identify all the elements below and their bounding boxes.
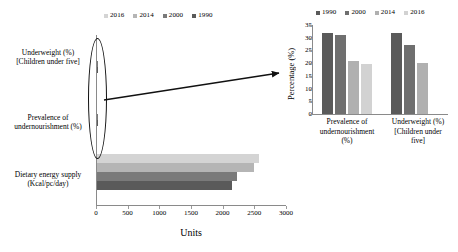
left-cat-undernourishment-line1: Prevalence of [2,113,94,122]
legend-swatch-2000-right [345,11,349,15]
left-xtick-label-0: 0 [94,209,98,217]
right-x-axis-line [312,114,448,115]
right-cat1-line2: undernourishment [310,127,384,137]
right-cat1-line3: (%) [310,136,384,146]
legend-label-2014-right: 2014 [381,9,395,16]
left-cat-dietary-line2: (Kcal/pc/day) [2,179,94,188]
legend-swatch-1990-right [316,11,320,15]
left-x-axis-title: Units [96,227,286,238]
right-chart-legend: 1990 2000 2014 2016 [316,9,425,16]
legend-label-2000: 2000 [169,12,183,19]
legend-label-1990-right: 1990 [322,9,336,16]
left-xtick-label-500: 500 [122,209,133,217]
left-category-label-underweight: Underweight (%) [Children under five] [2,48,94,66]
right-y-axis-line [312,25,313,114]
right-bar-underweight-2014 [417,63,428,114]
legend-swatch-2016 [104,14,108,18]
legend-item-1990-right: 1990 [316,9,336,16]
legend-swatch-1990 [192,14,196,18]
callout-ellipse [88,38,107,159]
right-bar-underweight-2000 [404,45,415,114]
legend-label-2014: 2014 [139,12,153,19]
legend-swatch-2016-right [404,11,408,15]
left-xtick-label-1500: 1500 [184,209,198,217]
left-cat-underweight-line2: [Children under five] [2,57,94,66]
left-xtick-label-3000: 3000 [279,209,293,217]
left-category-label-undernourishment: Prevalence of undernourishment (%) [2,113,94,131]
legend-item-2000-right: 2000 [345,9,365,16]
right-bar-undernourishment-1990 [322,33,333,114]
right-group-underweight [391,25,437,114]
left-bar-dietary-1990 [96,181,232,190]
right-category-label-undernourishment: Prevalence of undernourishment (%) [310,117,384,146]
figure-root: 2016 2014 2000 1990 Underweight (%) [Chi… [0,0,458,252]
right-bar-undernourishment-2016 [361,64,372,114]
left-cat-underweight-line1: Underweight (%) [2,48,94,57]
legend-label-2000-right: 2000 [351,9,365,16]
right-cat1-line1: Prevalence of [310,117,384,127]
legend-label-2016-right: 2016 [410,9,424,16]
right-bar-underweight-1990 [391,33,402,114]
left-xtick-label-2000: 2000 [216,209,230,217]
left-bar-dietary-2016 [96,154,259,163]
legend-item-2016: 2016 [104,12,124,19]
legend-item-2014-right: 2014 [375,9,395,16]
left-cat-dietary-line1: Dietary energy supply [2,170,94,179]
legend-item-2000: 2000 [163,12,183,19]
left-bar-dietary-2000 [96,172,237,181]
left-category-label-dietary: Dietary energy supply (Kcal/pc/day) [2,170,94,188]
legend-swatch-2014-right [375,11,379,15]
right-cat2-line2: [Children under [382,127,454,137]
left-xtick-label-2500: 2500 [247,209,261,217]
left-xtick-label-1000: 1000 [152,209,166,217]
right-bar-undernourishment-2000 [335,35,346,114]
legend-swatch-2000 [163,14,167,18]
right-cat2-line1: Underweight (%) [382,117,454,127]
legend-item-2014: 2014 [133,12,153,19]
legend-item-2016-right: 2016 [404,9,424,16]
right-bar-undernourishment-2014 [348,61,359,114]
left-plot-area [96,35,286,205]
right-cat2-line3: five] [382,136,454,146]
right-category-label-underweight: Underweight (%) [Children under five] [382,117,454,146]
right-group-undernourishment [322,25,378,114]
legend-label-2016: 2016 [110,12,124,19]
legend-swatch-2014 [133,14,137,18]
left-cat-undernourishment-line2: undernourishment (%) [2,122,94,131]
left-bar-chart: 2016 2014 2000 1990 Underweight (%) [Chi… [0,0,300,252]
legend-label-1990: 1990 [198,12,212,19]
legend-item-1990: 1990 [192,12,212,19]
left-bar-dietary-2014 [96,163,254,172]
left-chart-legend: 2016 2014 2000 1990 [104,12,213,19]
